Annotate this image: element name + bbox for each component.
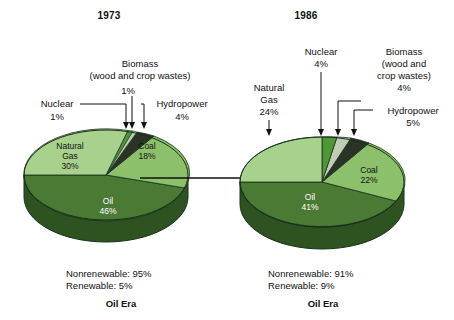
callout-biomass-1986-line1: Biomass (365, 46, 443, 58)
era-label-1973: Oil Era (66, 298, 176, 309)
era-label-1986: Oil Era (268, 298, 378, 309)
footer-renewable-1986: Renewable: 9% (268, 280, 438, 292)
callout-biomass-1973-line1: Biomass (60, 58, 220, 70)
chart-title-1986: 1986 (276, 10, 336, 21)
callout-nuclear-1986-value: 4% (290, 58, 352, 70)
footer-nonrenewable-1986: Nonrenewable: 91% (268, 268, 438, 280)
pie-chart-1986 (232, 130, 422, 255)
callout-biomass-1986-line2: (wood and (365, 58, 443, 70)
figure-canvas: 1973 1986 Biomass (wood and crop wastes)… (0, 0, 454, 320)
footer-renewable-1973: Renewable: 5% (66, 280, 226, 292)
callout-nuclear-1986-line1: Nuclear (290, 46, 352, 58)
footer-nonrenewable-1973: Nonrenewable: 95% (66, 268, 226, 280)
callout-biomass-1973-line2: (wood and crop wastes) (55, 70, 225, 82)
chart-title-1973: 1973 (79, 10, 139, 21)
